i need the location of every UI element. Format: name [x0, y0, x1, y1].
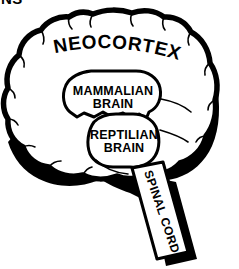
label-reptilian-brain-line2: BRAIN	[104, 141, 145, 155]
triune-brain-diagram: NS	[0, 0, 239, 269]
label-reptilian-brain-line1: REPTILIAN	[90, 128, 158, 142]
label-mammalian-brain-line1: MAMMALIAN	[73, 84, 153, 98]
label-mammalian-brain-line2: BRAIN	[93, 97, 134, 111]
brain-illustration: NEOCORTEX MAMMALIAN BRAIN REPTILIAN BRAI…	[0, 0, 239, 269]
